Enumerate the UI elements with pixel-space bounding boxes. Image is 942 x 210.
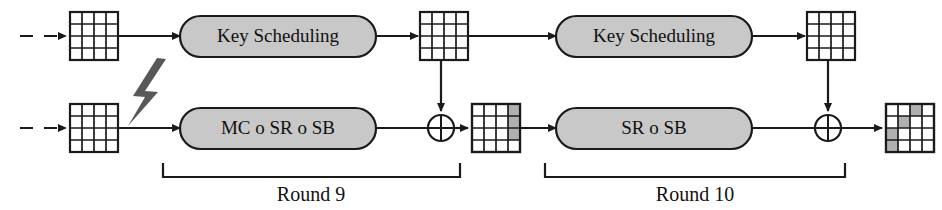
xor-round-10 [815, 115, 841, 141]
xor-round-9 [428, 115, 454, 141]
state-after-xor-9 [472, 104, 520, 152]
process-key-scheduling-10-label: Key Scheduling [593, 25, 715, 46]
state-key-in [70, 12, 118, 60]
round-9-bracket [163, 163, 460, 177]
lightning-bolt-icon [128, 58, 166, 126]
process-mc-sr-sb-9-label: MC o SR o SB [221, 117, 335, 138]
diagram-canvas: Key Scheduling Key Scheduling [0, 0, 942, 210]
state-roundkey-10 [807, 12, 855, 60]
state-data-in [70, 104, 118, 152]
process-key-scheduling-10[interactable]: Key Scheduling [556, 16, 752, 57]
state-roundkey-9 [420, 12, 468, 60]
process-mc-sr-sb-9[interactable]: MC o SR o SB [180, 108, 376, 149]
process-key-scheduling-9[interactable]: Key Scheduling [180, 16, 376, 57]
round-10-label: Round 10 [656, 183, 734, 205]
aes-rounds-diagram: Key Scheduling Key Scheduling [0, 0, 942, 210]
process-sr-sb-10-label: SR o SB [621, 117, 686, 138]
process-key-scheduling-9-label: Key Scheduling [217, 25, 339, 46]
process-sr-sb-10[interactable]: SR o SB [556, 108, 752, 149]
round-10-bracket [545, 163, 845, 177]
round-9-label: Round 9 [277, 183, 345, 205]
state-ciphertext [886, 104, 934, 152]
